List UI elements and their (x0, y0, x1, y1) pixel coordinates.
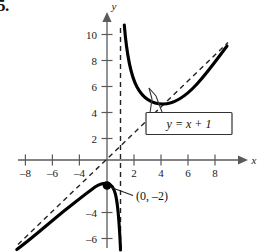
x-axis-label: x (251, 154, 257, 166)
slant-asymptote-callout: y = x + 1 (146, 88, 232, 135)
marked-point-group: (0, –2) (103, 181, 168, 203)
y-tick-label: –4 (85, 207, 98, 219)
x-tick-label: 4 (158, 167, 164, 179)
y-tick-label: –6 (85, 233, 98, 245)
point-label: (0, –2) (136, 189, 168, 203)
curve-group (17, 25, 227, 250)
x-axis-arrowhead (238, 156, 248, 165)
y-tick-label: 10 (86, 29, 98, 41)
x-tick-label: 2 (131, 167, 137, 179)
y-axis-arrowhead (102, 12, 111, 22)
x-tick-label: –4 (73, 167, 86, 179)
y-tick-label: 6 (92, 81, 98, 93)
callout-text: y = x + 1 (166, 117, 212, 131)
lower-branch-curve (17, 183, 121, 250)
y-tick-label: 2 (92, 133, 98, 145)
x-tick-label: –8 (19, 167, 32, 179)
asymptote-group (18, 28, 228, 249)
slant-asymptote (18, 43, 228, 245)
graph-figure: y x –8 –6 –4 2 4 6 8 10 8 6 4 2 –4 –6 (0, 0, 260, 252)
y-tick-label: 4 (92, 107, 98, 119)
point-marker (103, 181, 112, 190)
x-tick-label: 6 (185, 167, 191, 179)
x-tick-label: –6 (46, 167, 59, 179)
y-tick-label: 8 (92, 55, 98, 67)
x-tick-label: 8 (212, 167, 218, 179)
x-tick-group: –8 –6 –4 2 4 6 8 (19, 155, 218, 180)
y-tick-group: 10 8 6 4 2 –4 –6 (85, 29, 113, 245)
y-axis-label: y (111, 0, 117, 12)
